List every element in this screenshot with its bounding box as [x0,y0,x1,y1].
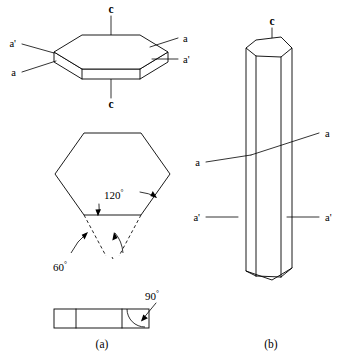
plate-label-right-upper: a [183,33,188,44]
prism-top-face [246,37,292,57]
plate-leader-left-upper [22,44,54,53]
prism-leader-left-upper [206,155,251,162]
plate-label-left-lower: a [11,67,16,78]
plate-c-label-top: c [108,3,113,15]
crystal-habit-figure: c c a' a a a' 120° 60° [0,0,346,358]
panel-b-caption: (b) [264,338,278,351]
panel-b-prism-group: c a a' a a' (b) [193,15,331,351]
angle-90-label: 90° [145,289,159,302]
prism-c-label: c [269,15,274,27]
plate-leader-right-upper [150,38,178,47]
prism-body-silhouette [246,39,292,280]
hexagon-wedge-apex-tick [112,257,113,259]
prism-label-right-upper: a [325,128,330,139]
plate-c-label-bottom: c [108,98,113,110]
panel-a-slab-group: 90° (a) [54,289,159,351]
hexagon-dashed-extension-left [84,215,106,256]
plate-label-right-lower: a' [183,54,190,65]
angle-60-label: 60° [53,260,67,273]
panel-a-plate-group: c c a' a a a' [9,3,189,110]
basal-hexagon-outline [55,133,170,215]
prism-label-right-lower: a' [325,212,332,223]
plate-leader-left-lower [22,61,56,72]
panel-a-hexagon-group: 120° 60° [53,133,170,273]
edge-slab-outline [54,309,149,328]
plate-label-left-upper: a' [9,38,16,49]
angle-60-arrow-left-head [82,232,88,240]
figure-root: c c a' a a a' 120° 60° [0,0,346,358]
prism-label-left-upper: a [195,157,200,168]
prism-label-left-lower: a' [193,212,200,223]
panel-a-caption: (a) [96,338,109,351]
